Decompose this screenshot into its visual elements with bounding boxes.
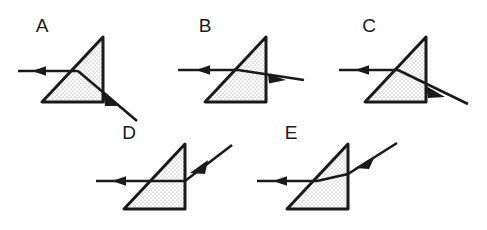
panel-label-b: B (199, 15, 212, 36)
incoming-arrowhead-a (32, 66, 46, 75)
panel-a: A (0, 18, 160, 123)
panel-c: C (325, 18, 485, 123)
incoming-ray-c (339, 65, 398, 74)
incoming-arrowhead-d (112, 176, 126, 185)
refraction-figure: A B (0, 0, 487, 230)
incoming-arrowhead-e (273, 176, 287, 185)
panel-b: B (160, 18, 320, 123)
incoming-ray-b (178, 65, 238, 74)
incoming-ray-e (257, 176, 317, 185)
incoming-arrowhead-c (355, 65, 369, 74)
panel-label-e: E (285, 122, 298, 143)
incoming-arrowhead-b (196, 65, 210, 74)
exit-ray-d (185, 145, 232, 181)
panel-label-d: D (122, 122, 136, 143)
prism-d (124, 144, 185, 209)
panel-label-c: C (362, 15, 376, 36)
exit-arrowhead-d (190, 160, 208, 174)
panel-e: E (245, 125, 405, 230)
panel-d: D (82, 125, 242, 230)
exit-arrowhead-e (355, 156, 375, 169)
panel-label-a: A (36, 15, 49, 36)
prism-a (42, 37, 103, 102)
exit-ray-e (348, 143, 397, 174)
